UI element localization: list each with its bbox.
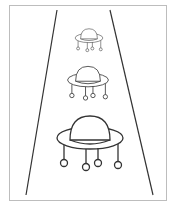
ufo-illustration bbox=[0, 0, 170, 209]
